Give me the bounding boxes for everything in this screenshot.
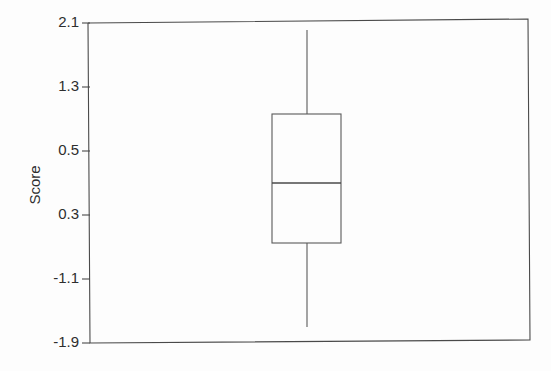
boxplot-canvas: 2.1 1.3 0.5 0.3 -1.1 -1.9 Score (0, 0, 551, 371)
y-axis-title: Score (26, 165, 43, 204)
y-tick-label-4: -1.1 (53, 269, 79, 286)
box-plot-series (272, 30, 341, 327)
y-axis-tick-labels: 2.1 1.3 0.5 0.3 -1.1 -1.9 (53, 13, 79, 350)
y-tick-label-5: -1.9 (53, 333, 79, 350)
interquartile-box (272, 114, 341, 243)
y-tick-label-2: 0.5 (58, 141, 79, 158)
y-tick-label-3: 0.3 (58, 205, 79, 222)
boxplot-figure: 2.1 1.3 0.5 0.3 -1.1 -1.9 Score (0, 0, 551, 371)
plot-frame-outline (88, 19, 530, 343)
plot-frame (88, 19, 530, 343)
y-tick-label-1: 1.3 (58, 77, 79, 94)
y-tick-label-0: 2.1 (58, 13, 79, 30)
